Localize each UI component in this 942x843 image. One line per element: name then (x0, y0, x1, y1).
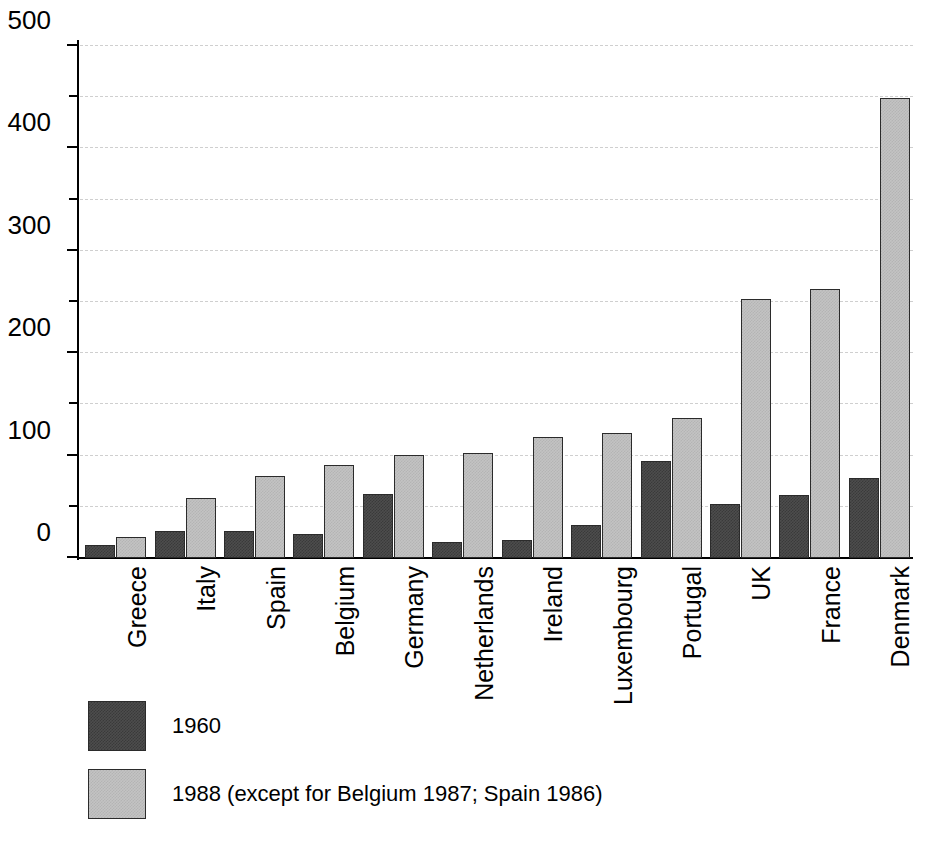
y-axis-tick-major: 400 (67, 146, 79, 148)
y-axis-tick-minor (69, 505, 79, 507)
bar-chart: 0100200300400500 GreeceItalySpainBelgium… (0, 0, 942, 843)
legend-item-1988: 1988 (except for Belgium 1987; Spain 198… (88, 768, 868, 820)
bar-group (710, 46, 771, 558)
bar-1960-uk (710, 504, 740, 558)
bar-group (363, 46, 424, 558)
bar-1960-italy (155, 531, 185, 558)
bar-1988-germany (394, 455, 424, 558)
bar-1988-belgium (324, 465, 354, 558)
bar-1988-denmark (880, 98, 910, 558)
y-axis-tick-minor (69, 402, 79, 404)
y-axis-tick-major: 300 (67, 249, 79, 251)
y-axis-tick-label: 500 (8, 7, 51, 33)
x-axis-label-denmark: Denmark (888, 566, 913, 667)
bar-1960-portugal (641, 461, 671, 558)
legend-item-1960: 1960 (88, 700, 868, 752)
bar-1988-france (810, 289, 840, 558)
bar-1988-italy (186, 498, 216, 558)
bar-1960-ireland (502, 540, 532, 558)
bar-1960-luxembourg (571, 525, 601, 558)
bar-group (155, 46, 216, 558)
y-axis-tick-minor (69, 198, 79, 200)
x-axis-label-greece: Greece (125, 566, 150, 648)
y-axis-tick-major: 200 (67, 351, 79, 353)
bar-1988-luxembourg (602, 433, 632, 558)
x-axis-label-uk: UK (749, 566, 774, 601)
bar-group (779, 46, 840, 558)
y-axis-tick-minor (69, 95, 79, 97)
bar-1988-greece (116, 537, 146, 559)
bar-1988-uk (741, 299, 771, 558)
bar-1960-netherlands (432, 542, 462, 558)
x-axis-label-italy: Italy (194, 566, 219, 612)
bar-1960-spain (224, 531, 254, 558)
x-axis-label-spain: Spain (264, 566, 289, 630)
x-axis-label-portugal: Portugal (680, 566, 705, 659)
y-axis-tick-label: 400 (8, 109, 51, 135)
x-axis-category-labels: GreeceItalySpainBelgiumGermanyNetherland… (78, 560, 913, 680)
x-axis-label-luxembourg: Luxembourg (611, 566, 636, 705)
bar-1960-belgium (293, 534, 323, 558)
x-axis-label-netherlands: Netherlands (472, 566, 497, 701)
bar-group (293, 46, 354, 558)
x-axis-label-france: France (819, 566, 844, 644)
legend-swatch-icon-1988 (88, 769, 146, 819)
bar-groups (80, 46, 913, 558)
bar-group (85, 46, 146, 558)
x-axis-label-ireland: Ireland (541, 566, 566, 642)
y-axis-tick-major: 500 (67, 44, 79, 46)
x-axis-label-germany: Germany (402, 566, 427, 669)
y-axis-tick-minor (69, 300, 79, 302)
bar-1960-denmark (849, 478, 879, 558)
bar-group (641, 46, 702, 558)
legend-label-1988: 1988 (except for Belgium 1987; Spain 198… (172, 783, 603, 805)
bar-1960-germany (363, 494, 393, 559)
y-axis-tick-major: 100 (67, 454, 79, 456)
bar-group (502, 46, 563, 558)
bar-group (224, 46, 285, 558)
y-axis-tick-label: 300 (8, 212, 51, 238)
bar-1988-spain (255, 476, 285, 558)
bar-1960-france (779, 495, 809, 558)
y-axis-tick-label: 200 (8, 314, 51, 340)
bar-1960-greece (85, 545, 115, 558)
bar-group (849, 46, 910, 558)
bar-1988-netherlands (463, 453, 493, 558)
bar-1988-portugal (672, 418, 702, 558)
x-axis-label-belgium: Belgium (333, 566, 358, 656)
y-axis-tick-label: 100 (8, 417, 51, 443)
bar-1988-ireland (533, 437, 563, 558)
legend-label-1960: 1960 (172, 715, 221, 737)
bar-group (571, 46, 632, 558)
legend-swatch-icon-1960 (88, 701, 146, 751)
bar-group (432, 46, 493, 558)
legend: 1960 1988 (except for Belgium 1987; Spai… (88, 700, 868, 836)
plot-area: 0100200300400500 (78, 46, 913, 558)
y-axis-tick-major: 0 (67, 556, 79, 558)
y-axis-tick-label: 0 (37, 519, 51, 545)
